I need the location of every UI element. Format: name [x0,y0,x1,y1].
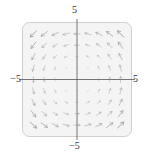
vector-field-figure: 5 −5 5 −5 [0,0,149,159]
vector-field-plot [0,0,149,159]
